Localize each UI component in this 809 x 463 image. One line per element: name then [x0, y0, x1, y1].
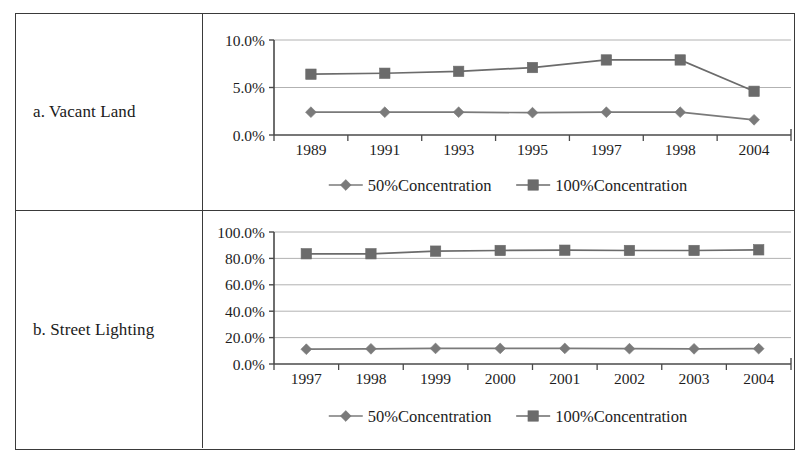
diamond-marker	[340, 411, 351, 422]
diamond-marker	[306, 107, 317, 118]
square-marker	[675, 55, 685, 65]
diamond-marker	[675, 107, 686, 118]
diamond-marker	[689, 343, 700, 354]
diamond-marker	[495, 343, 506, 354]
square-marker	[753, 245, 763, 255]
row-label-cell-a: a. Vacant Land	[16, 14, 203, 210]
chart-legend: 50%Concentration100%Concentration	[329, 407, 687, 426]
x-tick-label: 1998	[355, 370, 386, 387]
square-marker	[527, 62, 537, 72]
legend-label-50: 50%Concentration	[368, 176, 492, 195]
diamond-marker	[527, 107, 538, 118]
square-marker	[495, 245, 505, 255]
table-row: b. Street Lighting 0.0%20.0%40.0%60.0%80…	[16, 211, 794, 448]
square-marker	[301, 249, 311, 259]
x-tick-label: 2004	[739, 141, 770, 158]
square-marker	[380, 68, 390, 78]
square-marker	[601, 55, 611, 65]
x-tick-label: 2004	[743, 370, 774, 387]
x-tick-label: 1998	[665, 141, 696, 158]
chart-legend: 50%Concentration100%Concentration	[329, 176, 687, 195]
diamond-marker	[301, 344, 312, 355]
x-tick-label: 1997	[291, 370, 322, 387]
square-marker	[749, 86, 759, 96]
diamond-marker	[753, 343, 764, 354]
y-tick-label: 40.0%	[225, 303, 265, 320]
x-tick-label: 2003	[679, 370, 710, 387]
line-chart-vacant-land: 0.0%5.0%10.0%198919911993199519971998200…	[203, 14, 796, 211]
row-label-cell-b: b. Street Lighting	[16, 211, 203, 448]
y-tick-label: 80.0%	[225, 250, 265, 267]
square-marker	[624, 245, 634, 255]
y-tick-label: 10.0%	[225, 32, 265, 49]
x-tick-label: 1991	[369, 141, 400, 158]
diamond-marker	[453, 107, 464, 118]
chart-cell-b: 0.0%20.0%40.0%60.0%80.0%100.0%1997199819…	[203, 211, 794, 448]
legend-label-100: 100%Concentration	[555, 407, 687, 426]
figure-table: a. Vacant Land 0.0%5.0%10.0%198919911993…	[15, 13, 795, 450]
y-tick-label: 0.0%	[233, 127, 265, 144]
diamond-marker	[624, 343, 635, 354]
x-tick-label: 2002	[614, 370, 645, 387]
x-tick-label: 1993	[443, 141, 474, 158]
square-marker	[306, 69, 316, 79]
diamond-marker	[749, 114, 760, 125]
x-tick-label: 1995	[517, 141, 548, 158]
square-marker	[430, 246, 440, 256]
diamond-marker	[430, 343, 441, 354]
chart-street-lighting: 0.0%20.0%40.0%60.0%80.0%100.0%1997199819…	[203, 211, 796, 448]
square-marker	[689, 245, 699, 255]
y-tick-label: 0.0%	[233, 356, 265, 373]
diamond-marker	[340, 180, 351, 191]
square-marker	[453, 66, 463, 76]
square-marker	[528, 180, 538, 190]
table-row: a. Vacant Land 0.0%5.0%10.0%198919911993…	[16, 14, 794, 211]
chart-vacant-land: 0.0%5.0%10.0%198919911993199519971998200…	[203, 14, 796, 210]
figure-page: a. Vacant Land 0.0%5.0%10.0%198919911993…	[0, 0, 809, 463]
diamond-marker	[379, 107, 390, 118]
x-tick-label: 2000	[485, 370, 516, 387]
y-tick-label: 60.0%	[225, 276, 265, 293]
legend-label-50: 50%Concentration	[368, 407, 492, 426]
legend-label-100: 100%Concentration	[555, 176, 687, 195]
diamond-marker	[366, 343, 377, 354]
x-tick-label: 1999	[420, 370, 451, 387]
line-chart-street-lighting: 0.0%20.0%40.0%60.0%80.0%100.0%1997199819…	[203, 211, 796, 448]
y-tick-label: 20.0%	[225, 329, 265, 346]
square-marker	[560, 245, 570, 255]
x-tick-label: 1989	[295, 141, 326, 158]
row-label-a: a. Vacant Land	[16, 102, 136, 122]
diamond-marker	[601, 107, 612, 118]
x-tick-label: 2001	[549, 370, 580, 387]
row-label-b: b. Street Lighting	[16, 320, 154, 340]
chart-cell-a: 0.0%5.0%10.0%198919911993199519971998200…	[203, 14, 794, 210]
square-marker	[528, 411, 538, 421]
square-marker	[366, 249, 376, 259]
diamond-marker	[559, 343, 570, 354]
y-tick-label: 100.0%	[217, 224, 265, 241]
y-tick-label: 5.0%	[233, 79, 265, 96]
x-tick-label: 1997	[591, 141, 622, 158]
